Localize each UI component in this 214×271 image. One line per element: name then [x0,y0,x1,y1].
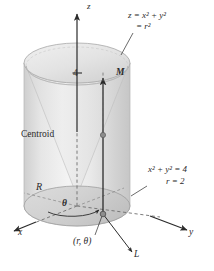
base-point-label: (r, θ) [73,237,91,247]
cylinder-equation-line2: r = 2 [166,177,185,186]
cylinder-equation-line1: x² + y² = 4 [148,165,187,174]
base-point-marker [100,211,106,217]
paraboloid-equation-line1: z = x² + y² [128,11,166,20]
math-figure: z z = x² + y² = r² 4 M Centroid x² + y² … [0,0,214,271]
paraboloid-equation-line2: = r² [136,22,151,31]
x-axis-label: x [18,228,22,238]
centroid-label: Centroid [21,130,54,140]
y-axis-arrow [150,216,187,230]
ray-L [103,214,132,252]
paraboloid-eq-leader [121,33,133,55]
cylinder-eq-leader [131,186,147,196]
region-label-R: R [36,182,42,192]
centroid-point [100,132,105,137]
polar-angle-label: θ [62,199,67,209]
mass-segment-label: M [116,68,124,78]
z-tick-label-4: 4 [73,69,78,79]
y-axis-label: y [189,228,193,238]
ray-label-L: L [134,250,139,260]
z-axis-label: z [87,2,91,11]
